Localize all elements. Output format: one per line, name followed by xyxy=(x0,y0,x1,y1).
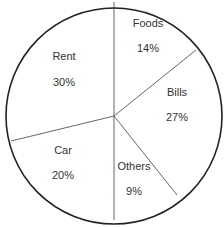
slice-value-bills: 27% xyxy=(166,111,188,123)
slice-divider-bills-others xyxy=(114,116,177,195)
slice-value-foods: 14% xyxy=(137,42,159,54)
slice-label-bills: Bills xyxy=(167,86,188,98)
slice-labels: Foods14%Bills27%Others9%Car20%Rent30% xyxy=(52,17,188,197)
pie-chart: Foods14%Bills27%Others9%Car20%Rent30% xyxy=(0,0,224,227)
slice-label-foods: Foods xyxy=(133,17,164,29)
slice-label-others: Others xyxy=(117,160,151,172)
slice-value-others: 9% xyxy=(126,185,142,197)
slice-label-car: Car xyxy=(54,144,72,156)
slice-value-rent: 30% xyxy=(53,76,75,88)
slice-label-rent: Rent xyxy=(52,50,75,62)
slice-value-car: 20% xyxy=(52,169,74,181)
slice-divider-foods-bills xyxy=(114,50,196,116)
slice-divider-car-rent xyxy=(11,116,114,141)
